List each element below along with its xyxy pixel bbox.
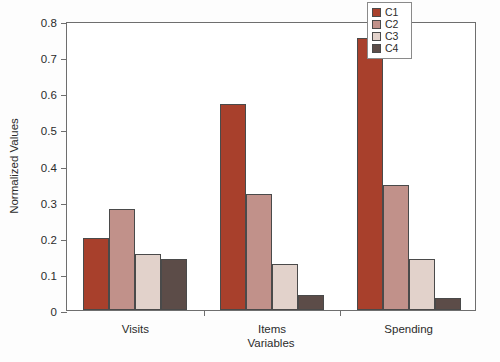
bar — [109, 209, 135, 311]
legend-swatch-icon — [372, 20, 381, 29]
y-axis-tick — [61, 240, 67, 241]
bar — [135, 254, 161, 310]
y-axis-tick — [61, 59, 67, 60]
y-axis-tick-label: 0.3 — [41, 198, 57, 210]
y-axis-tick — [61, 276, 67, 277]
y-axis-tick-label: 0.4 — [41, 162, 57, 174]
x-axis-group-label: Spending — [384, 323, 433, 335]
legend-label: C4 — [385, 43, 398, 54]
legend-label: C2 — [385, 19, 398, 30]
legend: C1C2C3C4 — [367, 2, 412, 59]
y-axis-tick-label: 0 — [51, 306, 58, 318]
y-axis-tick-label: 0.5 — [41, 125, 57, 137]
legend-item: C1 — [372, 7, 407, 18]
y-axis-tick — [61, 23, 67, 24]
y-axis-tick-label: 0.6 — [41, 89, 57, 101]
y-axis-tick — [61, 168, 67, 169]
bar — [435, 298, 461, 310]
y-axis-tick — [61, 131, 67, 132]
x-axis-title: Variables — [247, 337, 294, 349]
bar — [161, 259, 187, 310]
legend-label: C3 — [385, 31, 398, 42]
legend-swatch-icon — [372, 44, 381, 53]
legend-item: C2 — [372, 19, 407, 30]
y-axis-tick-label: 0.1 — [41, 270, 57, 282]
bar — [220, 104, 246, 310]
bar — [383, 185, 409, 310]
bar — [357, 38, 383, 310]
plot-area: 00.10.20.30.40.50.60.70.8 VisitsItemsSpe… — [66, 22, 476, 311]
bar — [83, 238, 109, 310]
y-axis-tick-label: 0.7 — [41, 53, 57, 65]
legend-item: C4 — [372, 43, 407, 54]
y-axis-tick — [61, 204, 67, 205]
x-axis-tick — [204, 310, 205, 316]
legend-swatch-icon — [372, 8, 381, 17]
y-axis-tick — [61, 95, 67, 96]
bar — [298, 295, 324, 310]
legend-item: C3 — [372, 31, 407, 42]
x-axis-group-label: Items — [258, 323, 286, 335]
bar — [246, 194, 272, 310]
figure: Normalized Values Variables 00.10.20.30.… — [0, 0, 500, 362]
legend-label: C1 — [385, 7, 398, 18]
legend-swatch-icon — [372, 32, 381, 41]
y-axis-tick-label: 0.8 — [41, 17, 57, 29]
y-axis-tick-label: 0.2 — [41, 234, 57, 246]
y-axis-title: Normalized Values — [8, 118, 20, 214]
x-axis-tick — [340, 310, 341, 316]
bar — [272, 264, 298, 310]
bar — [409, 259, 435, 310]
y-axis-tick — [61, 312, 67, 313]
x-axis-group-label: Visits — [122, 323, 149, 335]
